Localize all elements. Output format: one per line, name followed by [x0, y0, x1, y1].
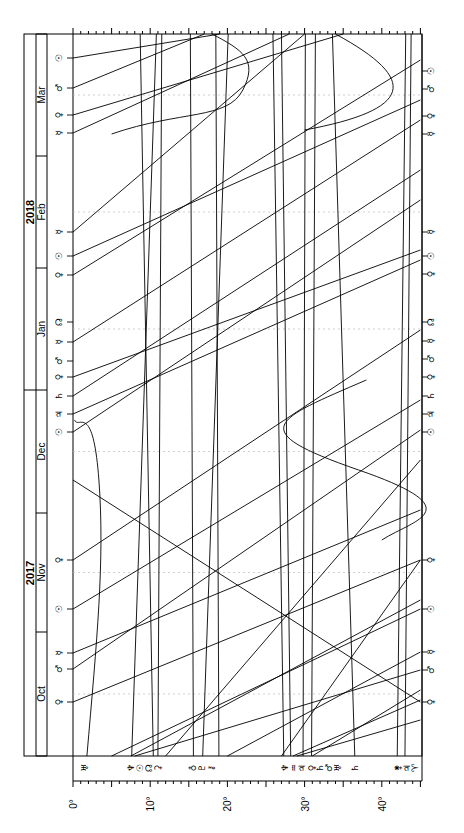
year-label: 2018 — [24, 200, 36, 224]
planet-line — [73, 200, 420, 432]
graphic-ephemeris-chart: OctNovDecJanFebMar201720180°10°20°30°40°… — [0, 0, 464, 833]
month-label: Oct — [36, 686, 47, 702]
planet-line — [227, 652, 420, 756]
planet-line — [273, 34, 284, 756]
planet-line — [190, 34, 193, 756]
planet-line — [73, 250, 420, 377]
planet-line — [73, 480, 420, 702]
planet-glyph-right: ♂ — [426, 666, 436, 674]
planet-line — [132, 34, 157, 756]
planet-line — [73, 34, 289, 133]
planet-glyph-right: ☿ — [426, 131, 436, 137]
planet-line — [158, 34, 162, 756]
x-tick-label: 20° — [222, 796, 233, 811]
x-tick-label: 10° — [145, 796, 156, 811]
planet-line — [73, 34, 343, 115]
planet-glyph-left: ♀ — [54, 699, 64, 706]
planet-glyph-left: ♀ — [54, 112, 64, 119]
month-label: Jan — [36, 321, 47, 337]
planet-line — [73, 330, 420, 560]
planet-line — [135, 670, 421, 756]
planet-glyph-left: ☉ — [54, 605, 64, 613]
planet-glyph-left: ♂ — [54, 84, 64, 92]
planet-glyph-bottom: ⚳ — [153, 765, 163, 772]
planet-glyph-right: ☿ — [426, 338, 436, 344]
planet-line — [73, 60, 420, 275]
planet-glyph-right: ♀ — [426, 374, 436, 381]
planet-line — [297, 720, 421, 756]
month-label: Mar — [36, 86, 47, 104]
outer-frame — [24, 34, 422, 756]
planet-glyph-right: ♀ — [426, 113, 436, 120]
x-tick-label: 40° — [377, 796, 388, 811]
year-label: 2017 — [24, 561, 36, 585]
planet-line — [73, 400, 420, 609]
planet-glyph-right: ☉ — [426, 605, 436, 613]
planet-glyph-right: ♀ — [426, 699, 436, 706]
planet-glyph-bottom: ⚷ — [206, 765, 216, 772]
planet-glyph-left: ☿ — [54, 229, 64, 235]
planet-glyph-bottom: ♅ — [80, 764, 90, 772]
planet-glyph-left: ♃ — [54, 410, 64, 418]
planet-glyph-left: ☿ — [54, 650, 64, 656]
month-label: Dec — [36, 443, 47, 461]
planet-glyph-right: ♂ — [426, 355, 436, 363]
planet-line — [140, 34, 153, 756]
planet-glyph-right: ♀ — [426, 557, 436, 564]
planet-glyph-left: ☉ — [54, 252, 64, 260]
planet-glyph-left: ♂ — [54, 665, 64, 673]
planet-glyph-right: ☉ — [426, 252, 436, 260]
planet-glyph-left: ☊ — [54, 318, 64, 326]
planet-glyph-bottom: ♈ — [410, 763, 420, 772]
gridlines — [73, 95, 422, 694]
planet-glyph-right: ♄ — [426, 392, 436, 400]
planet-glyph-right: ☉ — [426, 428, 436, 436]
x-tick-label: 30° — [300, 796, 311, 811]
planet-line — [73, 120, 420, 342]
month-label: Feb — [36, 203, 47, 221]
planet-glyph-left: ☉ — [54, 54, 64, 62]
planet-glyph-right: ♃ — [426, 410, 436, 418]
planet-glyph-left: ♀ — [54, 374, 64, 381]
planet-glyph-left: ♀ — [54, 557, 64, 564]
planet-line — [312, 34, 316, 756]
planet-glyph-left: ♂ — [54, 357, 64, 365]
planet-glyph-bottom: ♅ — [333, 764, 343, 772]
planet-glyph-left: ♀ — [54, 272, 64, 279]
planet-lines — [67, 34, 428, 756]
planet-line — [312, 690, 420, 756]
planet-glyph-right: ☿ — [426, 649, 436, 655]
planet-glyph-left: ☿ — [54, 130, 64, 136]
planet-line — [397, 34, 405, 756]
x-tick-label: 0° — [68, 799, 79, 809]
planet-line — [303, 34, 305, 756]
planet-line — [73, 100, 420, 256]
planet-line — [73, 34, 305, 232]
planet-glyph-left: ☉ — [54, 428, 64, 436]
planet-line — [216, 34, 219, 756]
planet-glyph-left: ♄ — [54, 392, 64, 400]
month-label: Nov — [36, 564, 47, 582]
planet-glyph-right: ♀ — [426, 271, 436, 278]
chart-labels: OctNovDecJanFebMar201720180°10°20°30°40°… — [24, 54, 436, 812]
planet-line — [73, 34, 204, 88]
planet-glyph-bottom: ♄ — [350, 764, 360, 772]
planet-glyph-right: ☿ — [426, 229, 436, 235]
planet-glyph-left: ☿ — [54, 339, 64, 345]
planet-line — [405, 34, 411, 756]
chart-frame — [24, 28, 422, 787]
planet-glyph-right: ☉ — [426, 67, 436, 75]
planet-line — [75, 420, 101, 756]
planet-line — [281, 560, 420, 756]
planet-glyph-right: ♂ — [426, 85, 436, 93]
planet-glyph-right: ☊ — [426, 318, 436, 326]
planet-line — [73, 34, 220, 58]
